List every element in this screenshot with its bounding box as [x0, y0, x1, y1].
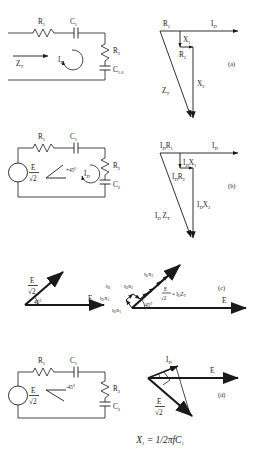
panel-a-label-r2: R2 [113, 47, 121, 56]
panel-a-label-id: ID [58, 56, 64, 65]
panel-c-left-angle: 45° [34, 299, 41, 305]
equation-group: X1 = 1/2πfC1 [135, 435, 183, 446]
figure-container: R1 C1 R2 C1.6 . ZT ID R1 ID X1 R2 X2 ZT … [0, 0, 261, 460]
panel-c-right-id: ID [106, 284, 111, 290]
panel-a-circuit: R1 C1 R2 C1.6 . ZT ID [8, 18, 124, 80]
panel-a-label-zt: ZT [16, 60, 23, 69]
panel-c-right-resultant-eq: = IDZT [172, 291, 187, 298]
panel-d-label-c2: C2 [113, 403, 121, 412]
panel-d-phasor-e: E [210, 367, 215, 375]
panel-c-right-idr1: IDR1 [112, 308, 121, 314]
panel-d-phasor: ID E E √2 (d) [148, 356, 238, 417]
panel-d-label-c1: C1 [70, 357, 78, 366]
panel-b-label-r2: R2 [113, 162, 121, 171]
panel-a-label-c1: C1 [70, 18, 78, 27]
panel-c-right-resultant-den: √2 [161, 295, 167, 301]
panel-a-phasor-id: ID [211, 20, 217, 29]
panel-c-right: ID IDX1 IDR2 IDX2 IDR1 E √2 = IDZT 45° E… [100, 265, 246, 314]
panel-b-phasor-id: ID [212, 142, 218, 151]
panel-d-id: (d) [218, 391, 225, 399]
panel-b-phasor-idzt: ID ZT [155, 212, 170, 221]
panel-b-phasor-idr1: IDR1 [160, 142, 174, 151]
panel-d-phasor-source-den: √2 [155, 409, 163, 417]
panel-b-source-num: E [31, 164, 36, 172]
panel-c-right-angle: 45° [145, 302, 152, 308]
panel-b-id: (b) [228, 182, 235, 190]
panel-c-right-reference: E [222, 297, 227, 305]
panel-b-phasor-idx2: IDX2 [197, 201, 211, 210]
panel-d-phasor-id: ID [166, 356, 172, 365]
panel-a-phasor-x1: X1 [183, 36, 191, 45]
panel-c-left-reference: E [88, 295, 93, 303]
panel-b-label-c2: C2 [113, 181, 121, 190]
panel-c-left-source-num: E [30, 277, 35, 285]
panel-b-circuit: R1 C1 R2 C2 E √2 +45° ID [9, 133, 121, 197]
panel-b-phasor: IDR1 ID IDX1 IDR2 IDX2 ID ZT (b) [155, 142, 238, 238]
panel-a-phasor-r2: R2 [179, 51, 187, 60]
panel-d-source-den: √2 [29, 398, 37, 406]
panel-d-phasor-source-num: E [157, 398, 162, 406]
panel-b-phasor-idr2: IDR2 [172, 173, 186, 182]
figure-svg: R1 C1 R2 C1.6 . ZT ID R1 ID X1 R2 X2 ZT … [0, 0, 261, 460]
panel-b-source-den: √2 [29, 175, 37, 183]
panel-a-id: (a) [228, 60, 235, 68]
formula-x1: X1 = 1/2πfC1 [135, 435, 183, 446]
panel-a-label-r1: R1 [38, 18, 46, 27]
panel-c-left-source-den: √2 [28, 288, 36, 296]
panel-c-right-resultant-num: E [164, 286, 167, 292]
panel-d-label-r2: R2 [113, 385, 121, 394]
panel-b-source-angle: +45° [66, 167, 76, 173]
panel-a-label-c2-real: . [113, 66, 115, 74]
panel-b-label-id: ID [84, 170, 90, 179]
panel-d-label-r1: R1 [38, 357, 46, 366]
panel-d-source-angle: -45° [66, 384, 75, 390]
panel-b-label-r1: R1 [38, 133, 46, 142]
panel-b-phasor-idx1: IDX1 [183, 159, 197, 168]
panel-a-phasor: R1 ID X1 R2 X2 ZT (a) [160, 20, 238, 118]
panel-a-phasor-x2: X2 [197, 80, 205, 89]
panel-d-source-num: E [31, 387, 36, 395]
panel-c-left: E √2 45° E [25, 272, 104, 305]
panel-a-phasor-zt: ZT [162, 87, 169, 96]
panel-c-id: (c) [218, 284, 225, 292]
panel-c-right-idx1: IDX1 [100, 296, 109, 302]
panel-c-right-idx2: IDX2 [144, 272, 153, 278]
panel-c-right-idr2: IDR2 [124, 284, 133, 290]
panel-b-label-c1: C1 [70, 133, 78, 142]
panel-d-circuit: R1 C1 R2 C2 E √2 -45° [9, 357, 121, 418]
panel-a-phasor-r1: R1 [163, 20, 171, 29]
